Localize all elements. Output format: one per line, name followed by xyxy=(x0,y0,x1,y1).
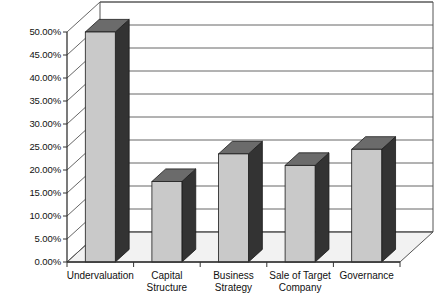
y-axis-label-40-00%: 40.00% xyxy=(29,72,61,83)
bar-1 xyxy=(85,19,129,262)
bar-3 xyxy=(219,141,263,262)
bar-chart: 0.00%5.00%10.00%15.00%20.00%25.00%30.00%… xyxy=(0,0,437,301)
y-axis-label-50-00%: 50.00% xyxy=(29,26,61,37)
x-axis-category-5: Governance xyxy=(327,270,406,282)
y-axis-label-35-00%: 35.00% xyxy=(29,95,61,106)
bar-4 xyxy=(285,153,329,262)
bar-5 xyxy=(352,137,396,262)
chart-canvas xyxy=(0,0,437,301)
y-axis-label-20-00%: 20.00% xyxy=(29,164,61,175)
y-axis-label-30-00%: 30.00% xyxy=(29,118,61,129)
y-axis-label-5-00%: 5.00% xyxy=(35,233,61,244)
y-axis-label-15-00%: 15.00% xyxy=(29,187,61,198)
bar-2 xyxy=(152,169,196,262)
y-axis-label-10-00%: 10.00% xyxy=(29,210,61,221)
y-axis-label-25-00%: 25.00% xyxy=(29,141,61,152)
y-axis-label-0-00%: 0.00% xyxy=(35,256,61,267)
y-axis-label-45-00%: 45.00% xyxy=(29,49,61,60)
